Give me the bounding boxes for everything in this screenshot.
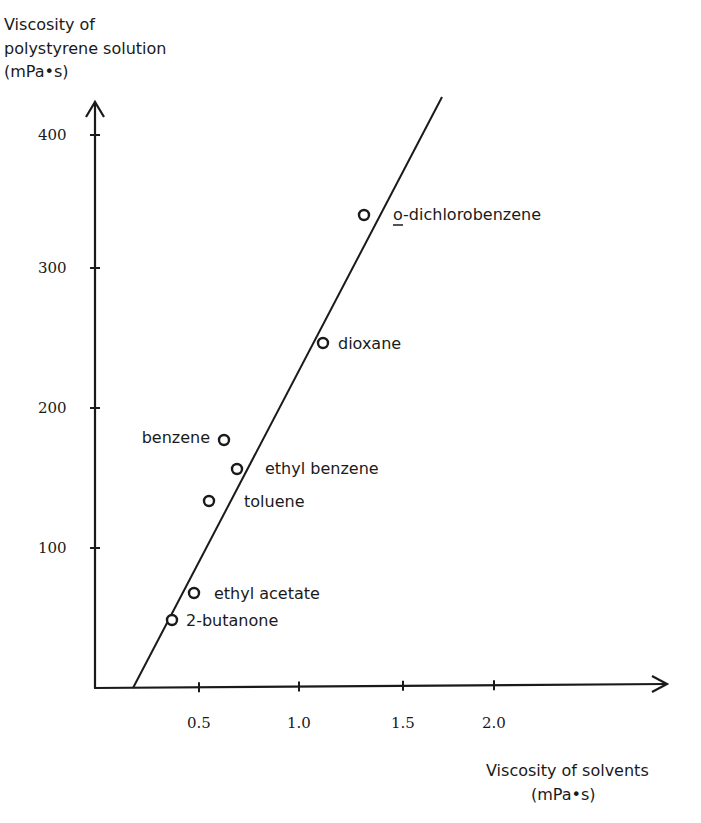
y-axis-label-line-2: polystyrene solution bbox=[4, 39, 166, 58]
y-tick-label: 200 bbox=[38, 399, 67, 417]
data-point-label: dioxane bbox=[338, 334, 401, 353]
x-tick-label: 0.5 bbox=[187, 714, 211, 732]
y-tick-label: 400 bbox=[38, 126, 67, 144]
axes bbox=[86, 102, 667, 692]
data-point-marker bbox=[189, 588, 199, 598]
data-point-label: ethyl acetate bbox=[214, 584, 320, 603]
data-point-label: ethyl benzene bbox=[265, 459, 379, 478]
x-axis-label-line-1: Viscosity of solvents bbox=[486, 761, 649, 780]
data-point-label: o-dichlorobenzene bbox=[393, 205, 541, 224]
x-axis-line bbox=[94, 684, 666, 688]
y-axis-label-line-3: (mPa•s) bbox=[4, 62, 69, 81]
data-point-marker bbox=[204, 496, 214, 506]
y-ticks: 100200300400 bbox=[38, 126, 100, 557]
data-point-label: benzene bbox=[142, 428, 210, 447]
y-axis-label-line-1: Viscosity of bbox=[4, 15, 95, 34]
x-tick-label: 1.5 bbox=[391, 714, 415, 732]
x-tick-label: 1.0 bbox=[287, 714, 311, 732]
data-point-label: toluene bbox=[244, 492, 304, 511]
data-points: 2-butanoneethyl acetatetolueneethyl benz… bbox=[142, 205, 541, 630]
x-axis-label-line-2: (mPa•s) bbox=[531, 785, 596, 804]
y-tick-label: 300 bbox=[38, 259, 67, 277]
y-tick-label: 100 bbox=[38, 539, 67, 557]
data-point-marker bbox=[359, 210, 369, 220]
data-point-label: 2-butanone bbox=[186, 611, 278, 630]
data-point-marker bbox=[167, 615, 177, 625]
data-point-marker bbox=[232, 464, 242, 474]
scatter-chart: Viscosity of polystyrene solution (mPa•s… bbox=[0, 0, 701, 823]
x-tick-label: 2.0 bbox=[482, 714, 506, 732]
data-point-marker bbox=[318, 338, 328, 348]
data-point-marker bbox=[219, 435, 229, 445]
